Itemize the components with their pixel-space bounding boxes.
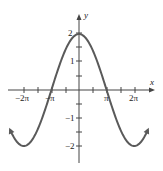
x-tick-label-neg-2pi: −2π: [15, 93, 30, 103]
y-tick-label-1: 1: [70, 56, 75, 66]
function-graph: y x −2π −π π 2π 2 1 −1 −2: [0, 0, 163, 171]
y-tick-label-neg-1: −1: [65, 113, 75, 123]
x-axis-arrow-icon: [149, 88, 155, 93]
y-tick-label-neg-2: −2: [65, 141, 75, 151]
x-tick-label-pi: π: [104, 93, 109, 103]
x-axis-label: x: [149, 77, 154, 87]
y-axis-arrow-icon: [77, 14, 82, 20]
x-tick-label-2pi: 2π: [129, 93, 139, 103]
y-axis-label: y: [83, 10, 88, 20]
y-tick-label-2: 2: [68, 28, 73, 38]
x-tick-label-neg-pi: −π: [45, 93, 55, 103]
